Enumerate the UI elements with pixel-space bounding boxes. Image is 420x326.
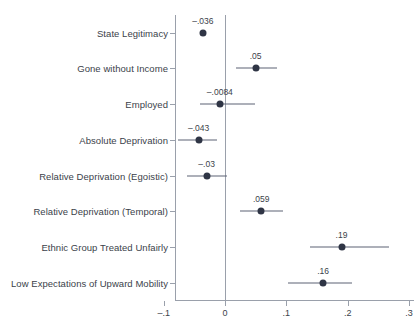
point-value-label: –.036 — [192, 16, 213, 26]
y-axis-tick — [170, 140, 176, 141]
plot-area: –.036.05–.0084–.043–.03.059.19.16–.10.1.… — [0, 0, 420, 326]
y-axis-spine — [175, 15, 176, 300]
y-axis-tick — [170, 176, 176, 177]
point-estimate-marker — [216, 101, 223, 108]
x-axis-tick — [348, 301, 349, 306]
coefficient-plot: State LegitimacyGone without IncomeEmplo… — [0, 0, 420, 326]
confidence-interval-bar — [310, 247, 390, 248]
y-axis-tick — [170, 211, 176, 212]
y-axis-tick — [170, 68, 176, 69]
point-value-label: .16 — [317, 266, 329, 276]
x-axis-tick — [409, 301, 410, 306]
point-value-label: .19 — [336, 230, 348, 240]
point-value-label: .059 — [253, 194, 270, 204]
point-value-label: .05 — [250, 51, 262, 61]
x-axis-tick-label: .2 — [344, 308, 352, 318]
point-value-label: –.03 — [198, 159, 215, 169]
x-axis-tick-label: .3 — [405, 308, 413, 318]
point-estimate-marker — [195, 137, 202, 144]
point-estimate-marker — [203, 173, 210, 180]
point-value-label: –.043 — [188, 123, 209, 133]
x-axis-tick-label: –.1 — [157, 308, 170, 318]
point-estimate-marker — [199, 30, 206, 37]
point-estimate-marker — [258, 208, 265, 215]
point-estimate-marker — [338, 244, 345, 251]
x-axis-tick-label: 0 — [222, 308, 227, 318]
x-axis-spine — [175, 300, 414, 301]
y-axis-tick — [170, 33, 176, 34]
y-axis-tick — [170, 104, 176, 105]
y-axis-tick — [170, 283, 176, 284]
zero-reference-line — [225, 15, 226, 300]
x-axis-tick — [225, 301, 226, 306]
point-estimate-marker — [252, 65, 259, 72]
y-axis-tick — [170, 247, 176, 248]
confidence-interval-bar — [200, 104, 255, 105]
point-value-label: –.0084 — [207, 87, 233, 97]
x-axis-tick-label: .1 — [283, 308, 291, 318]
x-axis-tick — [286, 301, 287, 306]
x-axis-tick — [164, 301, 165, 306]
point-estimate-marker — [320, 280, 327, 287]
